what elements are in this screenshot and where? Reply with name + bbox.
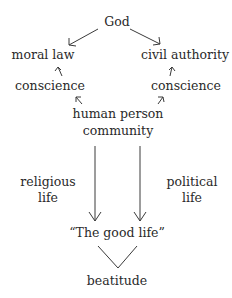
label-political: political bbox=[167, 175, 218, 189]
arrow-political-life bbox=[134, 146, 146, 221]
arrow-person-to-conscience-right bbox=[158, 97, 164, 104]
node-human-person: human person bbox=[73, 107, 164, 121]
node-conscience-left: conscience bbox=[15, 79, 85, 93]
label-religious: religious bbox=[20, 175, 75, 189]
arrow-conscience-to-civil-authority bbox=[169, 67, 175, 76]
node-civil-authority: civil authority bbox=[141, 48, 229, 62]
node-moral-law: moral law bbox=[12, 48, 75, 62]
node-community: community bbox=[83, 124, 153, 138]
arrow-conscience-to-moral-law bbox=[55, 67, 62, 76]
node-beatitude: beatitude bbox=[87, 274, 147, 288]
diagram-connectors bbox=[0, 0, 232, 298]
node-conscience-right: conscience bbox=[151, 79, 221, 93]
node-god: God bbox=[104, 15, 130, 29]
arrow-religious-life bbox=[89, 146, 101, 221]
node-good-life: “The good life” bbox=[69, 226, 165, 240]
arrow-god-to-moral-law bbox=[69, 29, 98, 46]
arrow-god-to-civil-authority bbox=[130, 29, 160, 45]
arrow-person-to-conscience-left bbox=[76, 97, 82, 104]
connector-good-life-to-beatitude bbox=[98, 246, 137, 268]
label-political-life: life bbox=[182, 191, 202, 205]
label-religious-life: life bbox=[38, 191, 58, 205]
